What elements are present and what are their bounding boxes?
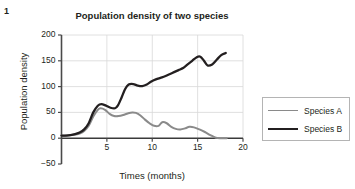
y-tick-label: −50	[30, 159, 56, 168]
legend-label-species-a: Species A	[304, 106, 342, 116]
x-tick-label: 10	[144, 143, 160, 152]
legend-swatch-species-a	[268, 110, 298, 111]
y-tick-label: 50	[30, 107, 56, 116]
x-tick-label: 5	[99, 143, 115, 152]
legend-item-species-b: Species B	[268, 123, 342, 134]
chart-legend: Species A Species B	[262, 97, 350, 141]
x-tick-label: 15	[190, 143, 206, 152]
y-tick-label: 0	[30, 133, 56, 142]
legend-item-species-a: Species A	[268, 105, 342, 116]
y-tick-label: 200	[30, 30, 56, 39]
y-tick-label: 100	[30, 82, 56, 91]
figure-container: 1 Population density of two species Popu…	[0, 0, 355, 189]
legend-swatch-species-b	[268, 128, 298, 130]
y-tick-label: 150	[30, 56, 56, 65]
x-tick-label: 20	[235, 143, 251, 152]
legend-label-species-b: Species B	[304, 124, 342, 134]
series-line-species-b	[62, 53, 226, 136]
